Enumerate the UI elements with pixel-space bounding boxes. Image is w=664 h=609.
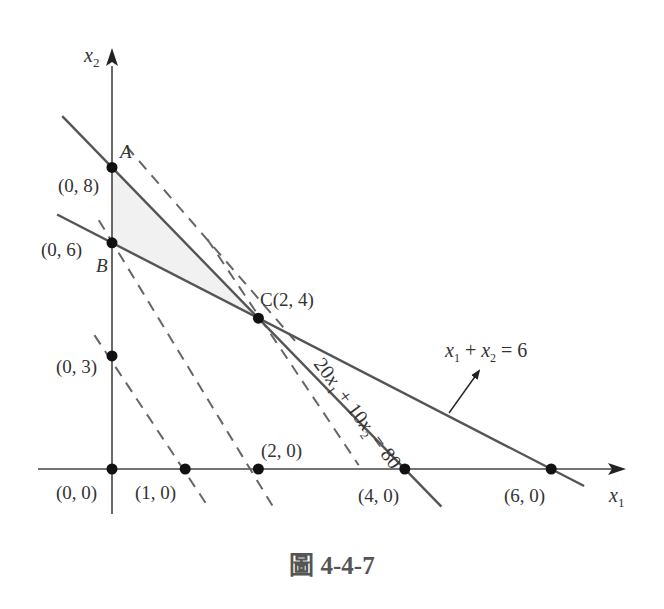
point-0-0: [107, 464, 118, 475]
x1-axis-label: x1: [608, 484, 624, 510]
iso-line-3: [207, 239, 359, 465]
point-0-8: [107, 162, 118, 173]
point-0-6: [107, 237, 118, 248]
point-6-0: [546, 464, 557, 475]
lp-graph: x2 x1 A (0, 8) (0, 6) B C(2, 4) (0, 3) (…: [0, 0, 664, 609]
point-2-4: [253, 313, 264, 324]
label-C-2-4: C(2, 4): [260, 289, 314, 311]
equation-x1-plus-x2-label: x1 + x2 = 6: [444, 339, 527, 365]
label-point-A: A: [118, 141, 132, 162]
label-2-0: (2, 0): [261, 440, 302, 462]
point-2-0: [253, 464, 264, 475]
point-1-0: [180, 464, 191, 475]
equation-20x1-plus-10x2-label: 20x1 + 10x2 = 80: [307, 353, 407, 475]
label-1-0: (1, 0): [135, 482, 176, 504]
label-0-0: (0, 0): [56, 482, 97, 504]
label-0-8: (0, 8): [58, 175, 99, 197]
x2-axis-arrowhead-icon: [106, 48, 118, 66]
label-0-3: (0, 3): [56, 356, 97, 378]
constraint-lines: [57, 116, 584, 507]
label-0-6: (0, 6): [41, 239, 82, 261]
figure-caption: 圖 4-4-7: [0, 545, 664, 581]
label-point-B: B: [96, 255, 108, 276]
axes: [38, 48, 626, 514]
label-6-0: (6, 0): [504, 485, 545, 507]
equation-pointer-arrow-icon: [449, 371, 479, 413]
label-4-0: (4, 0): [358, 485, 399, 507]
x2-axis-label: x2: [83, 44, 99, 70]
point-0-3: [107, 350, 118, 361]
point-4-0: [399, 464, 410, 475]
points: [107, 162, 557, 475]
